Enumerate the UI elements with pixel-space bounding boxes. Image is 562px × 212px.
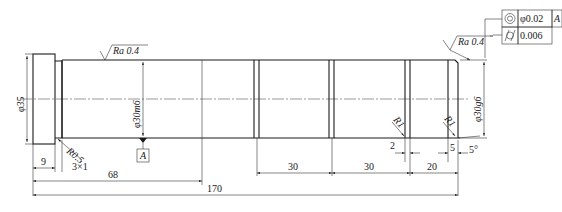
concentricity-icon — [505, 14, 515, 24]
svg-text:68: 68 — [108, 169, 118, 180]
roughness-main: Ra 0.4 — [112, 45, 139, 56]
svg-text:5: 5 — [450, 142, 455, 153]
svg-text:170: 170 — [207, 183, 222, 194]
svg-text:3×1: 3×1 — [72, 161, 88, 172]
cylindricity-icon — [505, 30, 515, 41]
svg-text:R1: R1 — [442, 112, 458, 128]
undercut — [55, 61, 62, 138]
svg-text:30: 30 — [364, 161, 374, 172]
svg-text:20: 20 — [427, 161, 437, 172]
svg-text:2: 2 — [390, 140, 395, 151]
svg-text:A: A — [553, 13, 561, 24]
dia-35-label: φ35 — [15, 96, 26, 112]
dia-30m6-label: φ30m6 — [131, 100, 142, 128]
dia-30g6-label: φ30g6 — [472, 96, 483, 122]
svg-text:5°: 5° — [469, 144, 478, 155]
roughness-right: Ra 0.4 — [457, 36, 484, 47]
shaft-drawing: φ35 φ30m6 A Ra 0.4 Ra 0.4 φ0.02 A 0.006 … — [0, 0, 562, 212]
datum-a-label: A — [139, 150, 147, 161]
svg-text:φ0.02: φ0.02 — [520, 13, 543, 24]
svg-text:9: 9 — [41, 156, 46, 167]
svg-text:30: 30 — [288, 161, 298, 172]
svg-text:0.006: 0.006 — [520, 30, 543, 41]
